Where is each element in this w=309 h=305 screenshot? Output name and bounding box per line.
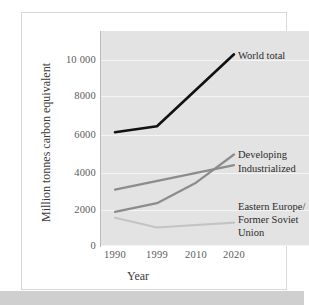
- page-bottom-strip: [0, 291, 304, 305]
- series-label-industrialized: Industrialized: [238, 163, 296, 175]
- series-line-developing: [115, 155, 234, 212]
- x-tick-2020: 2020: [211, 249, 257, 260]
- x-tick-1990: 1990: [92, 249, 138, 260]
- series-label-eastern-europe-line2: Former Soviet: [238, 214, 298, 226]
- y-axis-title: Million tonnes carbon equivalent: [39, 27, 54, 259]
- series-line-world-total: [115, 54, 234, 132]
- x-axis-title: Year: [22, 269, 254, 284]
- series-label-developing: Developing: [238, 149, 287, 161]
- series-line-eastern-europe: [115, 218, 234, 228]
- chart-card: 10 000 8000 6000 4000 2000 0 1990 1999 2…: [21, 12, 287, 290]
- series-label-eastern-europe-line3: Union: [238, 227, 264, 239]
- series-label-world-total: World total: [238, 50, 285, 62]
- series-label-eastern-europe-line1: Eastern Europe/: [238, 201, 304, 213]
- figure-container: 10 000 8000 6000 4000 2000 0 1990 1999 2…: [0, 0, 304, 305]
